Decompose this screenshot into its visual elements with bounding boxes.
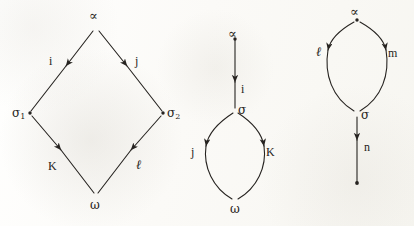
diamond-edge-sigma2-omega: [98, 116, 161, 193]
diamond-edge-label-i: i: [49, 55, 52, 67]
lens-above-edge-label-n: n: [364, 141, 370, 153]
diamond-node-dot-sigma2: [161, 111, 164, 114]
lens-above-edge-left-ell: [327, 22, 354, 111]
lens-above-edge-right-m: [360, 22, 387, 111]
lens-above-edge-label-ell: ℓ: [316, 45, 321, 58]
diamond-node-label-sigma2-base: σ: [167, 106, 175, 120]
diamond-node-label-sigma1-base: σ: [12, 106, 20, 120]
diamond-edge-alpha-sigma1: [31, 31, 93, 111]
diamond-node-label-sigma2: σ2: [167, 107, 180, 121]
lens-below-node-label-omega: ω: [230, 203, 240, 215]
diamond-node-label-alpha: ∝: [89, 9, 98, 22]
lens-above-node-label-sigma: σ: [361, 109, 369, 121]
lens-below-edge-right-K: [238, 113, 265, 199]
lens-above-node-label-alpha: ∝: [350, 5, 359, 18]
caption-smudge: [176, 214, 222, 220]
lens-below-edge-label-i: i: [241, 83, 244, 95]
lens-below-edge-label-k: K: [266, 146, 275, 158]
lens-below-node-label-sigma: σ: [238, 104, 246, 116]
diamond-edge-label-k: K: [48, 160, 57, 172]
lens-below-edge-left-j: [205, 113, 233, 199]
diamond-node-label-sigma1-subscript: 1: [20, 112, 25, 121]
lens-above-node-dot-end: [355, 181, 359, 185]
diamond-edge-sigma1-omega: [32, 116, 94, 193]
figure-canvas: ∝ σ1 σ2 ω i j K ℓ ∝ σ ω i j K ∝ σ ℓ m n: [0, 0, 414, 226]
lens-below-node-label-alpha: ∝: [228, 27, 237, 40]
lens-above-edge-label-m: m: [388, 47, 397, 59]
diagram-vector-layer: [0, 0, 414, 226]
diamond-edge-label-j: j: [135, 55, 138, 67]
diamond-node-label-omega: ω: [90, 199, 100, 211]
diamond-edge-label-ell: ℓ: [136, 158, 141, 171]
diamond-node-label-sigma1: σ1: [12, 107, 25, 121]
diamond-node-dot-sigma1: [28, 111, 31, 114]
lens-below-edge-label-j: j: [191, 146, 194, 158]
diamond-edge-alpha-sigma2: [99, 31, 162, 111]
diamond-node-label-sigma2-subscript: 2: [175, 112, 180, 121]
